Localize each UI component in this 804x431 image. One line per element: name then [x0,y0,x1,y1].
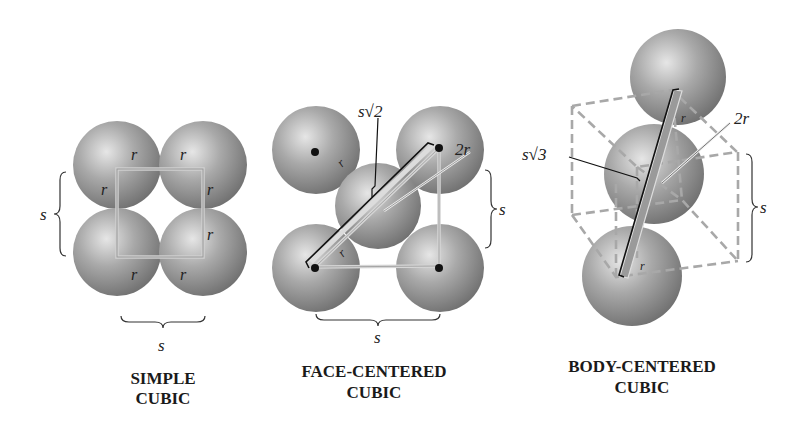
radius-label: r [131,266,138,283]
radius-label: r [180,266,187,283]
brace-right [746,154,758,262]
brace-bottom [316,314,440,326]
side-label: s [374,328,381,347]
radius-label: r [180,146,187,163]
brace-left [54,172,66,256]
brace-bottom [121,316,205,328]
simple-cubic-diagram: r r r r r r r s s SIMPLE CUBIC [40,121,247,408]
caption-line1: BODY-CENTERED [568,357,716,376]
caption-line1: FACE-CENTERED [301,362,446,381]
side-label: s [40,205,47,224]
caption-line2: CUBIC [136,389,191,408]
diagonal-label: s√3 [522,145,546,164]
radius-label: r [207,226,214,243]
caption-line2: CUBIC [615,378,670,397]
sphere [630,29,726,125]
unit-cell-diagram: r r r r r r r s s SIMPLE CUBIC r r [0,0,804,431]
brace-right [485,170,497,248]
side-label: s [499,200,506,219]
caption-line1: SIMPLE [130,369,195,388]
side-label: s [760,198,767,217]
caption-line2: CUBIC [347,383,402,402]
diameter-label: 2r [455,140,471,159]
body-centered-cubic-diagram: r r s√3 2r s BODY-CENTERED CUBIC [522,29,767,397]
diameter-label: 2r [734,109,750,128]
radius-label: r [101,181,108,198]
radius-label: r [207,181,214,198]
side-label: s [158,336,165,355]
radius-label: r [131,146,138,163]
face-centered-cubic-diagram: r r s√2 2r s s FACE-CENTERED CUBIC [272,102,506,402]
radius-label: r [681,111,686,125]
diagonal-label: s√2 [358,102,383,121]
radius-label: r [640,259,645,273]
